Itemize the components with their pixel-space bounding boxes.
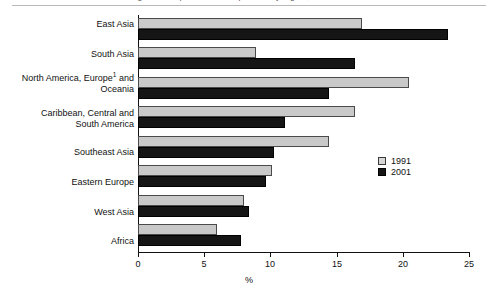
legend-swatch-1991-icon xyxy=(378,157,386,165)
x-tick-label-20: 20 xyxy=(398,259,408,269)
bar-east-asia-1991 xyxy=(138,18,362,29)
category-label-text: West Asia xyxy=(94,207,134,217)
category-label-west-asia: West Asia xyxy=(4,207,134,218)
category-label-text: Southeast Asia xyxy=(74,147,134,157)
x-axis-line xyxy=(138,252,470,253)
bar-north-america-europe-and-oceania-1991 xyxy=(138,77,409,88)
category-label-east-asia: East Asia xyxy=(4,19,134,30)
category-label-south-asia: South Asia xyxy=(4,49,134,60)
legend-item-2001: 2001 xyxy=(378,166,411,177)
chart-figure: Figure 3. Proportion of older persons by… xyxy=(0,0,498,298)
category-label-africa: Africa xyxy=(4,236,134,247)
category-label-text-line1: North America, Europe xyxy=(22,73,113,83)
category-label-text-line2: Oceania xyxy=(100,83,134,93)
category-label-text-and: and xyxy=(116,73,134,83)
caption-fragment: Figure 3. Proportion of older persons by… xyxy=(0,0,498,3)
category-label-caribbean-central-south-america: Caribbean, Central and South America xyxy=(4,108,134,129)
category-label-text-line2: South America xyxy=(75,118,134,128)
bar-south-asia-2001 xyxy=(138,58,355,69)
category-label-north-america-europe-oceania: North America, Europe1 and Oceania xyxy=(4,73,134,94)
bar-southeast-asia-2001 xyxy=(138,147,274,158)
legend-label-2001: 2001 xyxy=(391,167,411,177)
x-tick-15 xyxy=(337,253,338,257)
x-tick-label-10: 10 xyxy=(265,259,275,269)
x-tick-0 xyxy=(138,253,139,257)
category-label-text: East Asia xyxy=(96,19,134,29)
x-tick-label-25: 25 xyxy=(464,259,474,269)
bar-north-america-europe-and-oceania-2001 xyxy=(138,88,329,99)
x-tick-label-15: 15 xyxy=(332,259,342,269)
legend-swatch-2001-icon xyxy=(378,168,386,176)
category-label-text: South Asia xyxy=(91,49,134,59)
x-tick-label-5: 5 xyxy=(201,259,206,269)
bar-caribbean-central-and-south-america-2001 xyxy=(138,117,285,128)
bar-west-asia-1991 xyxy=(138,195,244,206)
x-tick-5 xyxy=(204,253,205,257)
bar-southeast-asia-1991 xyxy=(138,136,329,147)
chart-legend: 1991 2001 xyxy=(378,155,411,177)
bar-south-asia-1991 xyxy=(138,47,256,58)
x-tick-label-0: 0 xyxy=(135,259,140,269)
legend-label-1991: 1991 xyxy=(391,156,411,166)
category-label-text: Eastern Europe xyxy=(71,177,134,187)
x-tick-25 xyxy=(469,253,470,257)
category-label-text: Africa xyxy=(111,236,134,246)
category-label-text-line1: Caribbean, Central and xyxy=(41,108,134,118)
x-tick-20 xyxy=(403,253,404,257)
x-axis-title: % xyxy=(0,275,498,285)
category-label-eastern-europe: Eastern Europe xyxy=(4,177,134,188)
category-label-southeast-asia: Southeast Asia xyxy=(4,147,134,158)
bar-caribbean-central-and-south-america-1991 xyxy=(138,106,355,117)
x-tick-10 xyxy=(270,253,271,257)
bar-africa-1991 xyxy=(138,224,217,235)
legend-item-1991: 1991 xyxy=(378,155,411,166)
bar-west-asia-2001 xyxy=(138,206,249,217)
bar-east-asia-2001 xyxy=(138,29,448,40)
top-rule-divider xyxy=(12,5,486,6)
bar-eastern-europe-1991 xyxy=(138,165,272,176)
bar-africa-2001 xyxy=(138,235,241,246)
bar-eastern-europe-2001 xyxy=(138,176,266,187)
